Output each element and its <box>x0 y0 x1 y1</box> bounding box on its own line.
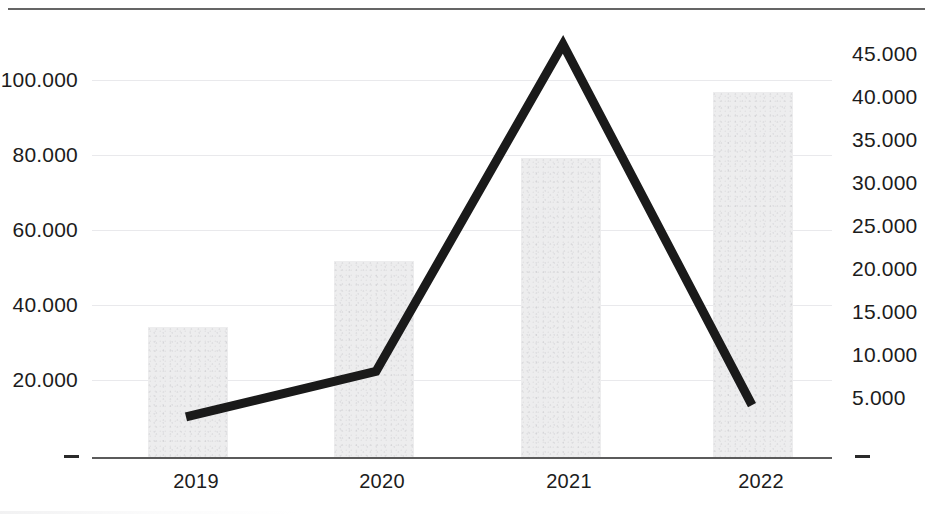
x-tick-2021: 2021 <box>499 470 639 493</box>
left-tick-zero-dash <box>64 455 79 458</box>
right-tick-20000: 20.000 <box>852 257 917 281</box>
x-tick-2019: 2019 <box>126 470 266 493</box>
right-tick-45000: 45.000 <box>852 42 917 66</box>
right-tick-5000: 5.000 <box>852 386 906 410</box>
x-tick-2022: 2022 <box>691 470 831 493</box>
right-tick-zero-dash <box>855 455 870 458</box>
right-tick-30000: 30.000 <box>852 171 917 195</box>
right-tick-15000: 15.000 <box>852 300 917 324</box>
left-tick-20000: 20.000 <box>13 368 78 392</box>
left-tick-40000: 40.000 <box>13 293 78 317</box>
left-axis: 100.000 80.000 60.000 40.000 20.000 <box>0 0 78 519</box>
combo-chart: 100.000 80.000 60.000 40.000 20.000 45.0… <box>0 0 933 519</box>
line-series-layer <box>0 0 933 519</box>
right-tick-25000: 25.000 <box>852 214 917 238</box>
line-series-path <box>186 44 752 417</box>
left-tick-60000: 60.000 <box>13 218 78 242</box>
right-tick-40000: 40.000 <box>852 85 917 109</box>
right-tick-10000: 10.000 <box>852 343 917 367</box>
x-axis-line <box>92 457 832 459</box>
right-tick-35000: 35.000 <box>852 128 917 152</box>
x-tick-2020: 2020 <box>312 470 452 493</box>
scan-artifact <box>0 511 300 514</box>
right-axis: 45.000 40.000 35.000 30.000 25.000 20.00… <box>852 0 933 519</box>
left-tick-80000: 80.000 <box>13 143 78 167</box>
left-tick-100000: 100.000 <box>1 68 78 92</box>
chart-page: 100.000 80.000 60.000 40.000 20.000 45.0… <box>0 0 933 519</box>
